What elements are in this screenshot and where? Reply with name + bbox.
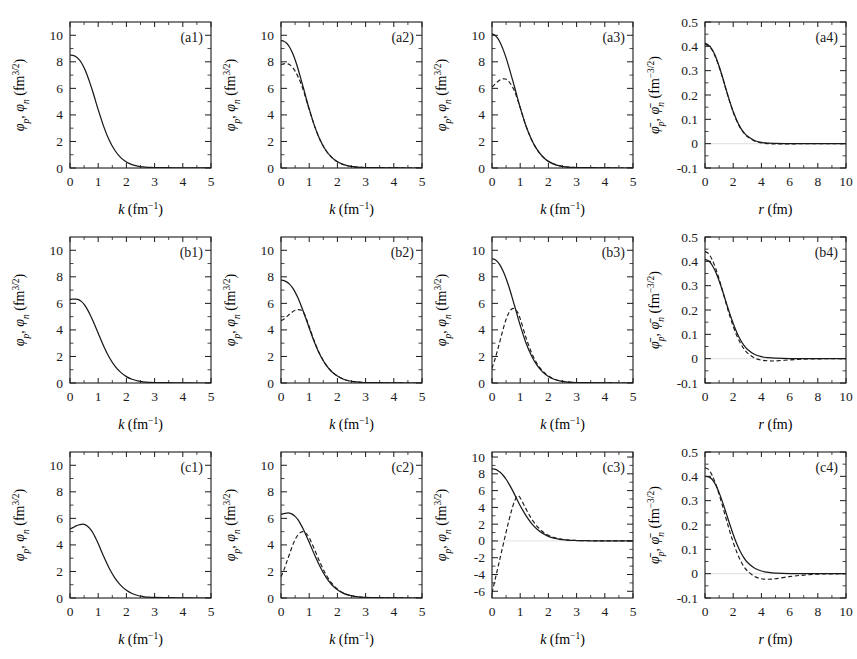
- y-tick-label: -6: [474, 584, 485, 599]
- x-tick-label: 8: [814, 174, 821, 189]
- x-tick-label: 1: [306, 174, 313, 189]
- x-tick-label: 3: [151, 389, 158, 404]
- y-tick-label: 10: [472, 450, 486, 465]
- y-tick-label: 2: [56, 349, 63, 364]
- y-tick-label: 6: [56, 81, 63, 96]
- x-tick-label: 2: [123, 174, 130, 189]
- y-tick-label: 10: [50, 243, 64, 258]
- y-tick-label: 6: [56, 296, 63, 311]
- x-tick-label: 3: [573, 604, 580, 619]
- y-tick-label: 2: [478, 517, 485, 532]
- x-tick-label: 10: [839, 604, 853, 619]
- y-tick-label: 10: [261, 28, 275, 43]
- panel-label: (b3): [602, 245, 626, 261]
- y-tick-label: 8: [267, 54, 274, 69]
- panel-label: (b1): [180, 245, 204, 261]
- x-tick-label: 1: [95, 604, 102, 619]
- y-tick-label: 8: [478, 269, 485, 284]
- curve-a4-neutron: [705, 44, 846, 144]
- y-tick-label: 0.1: [681, 112, 698, 127]
- y-tick-label: 8: [56, 54, 63, 69]
- y-tick-label: 6: [56, 511, 63, 526]
- y-tick-label: 0.2: [681, 303, 698, 318]
- y-tick-label: 0: [478, 533, 485, 548]
- y-tick-label: 2: [478, 349, 485, 364]
- x-tick-label: 0: [67, 389, 74, 404]
- panel-label: (c3): [602, 460, 625, 476]
- panel-a3: 0123450246810(a3)k (fm−1)φp, φn (fm3/2): [422, 0, 647, 220]
- x-tick-label: 10: [839, 389, 853, 404]
- curve-a3-neutron: [492, 79, 633, 168]
- curve-b2-proton: [281, 280, 422, 383]
- x-tick-label: 4: [758, 604, 765, 619]
- x-tick-label: 10: [839, 174, 853, 189]
- y-tick-label: 0.4: [681, 469, 698, 484]
- panel-label: (a2): [391, 30, 414, 46]
- x-tick-label: 0: [278, 174, 285, 189]
- x-tick-label: 4: [390, 389, 397, 404]
- y-tick-label: 0: [691, 351, 698, 366]
- y-tick-label: 0: [56, 161, 63, 176]
- y-tick-label: 4: [56, 107, 63, 122]
- panel-c1: 0123450246810(c1)k (fm−1)φp, φn (fm3/2): [0, 430, 225, 650]
- y-tick-label: 0.1: [681, 542, 698, 557]
- y-axis-label: φp, φn (fm3/2): [433, 58, 453, 131]
- panel-a4: 0246810-0.100.10.20.30.40.5(a4)r (fm)φ̄p…: [635, 0, 857, 220]
- y-axis-label: φp, φn (fm3/2): [222, 58, 242, 131]
- y-tick-label: 4: [267, 322, 274, 337]
- y-tick-label: 6: [267, 296, 274, 311]
- y-tick-label: 2: [267, 134, 274, 149]
- curve-c1-proton: [70, 524, 211, 598]
- y-axis-label: φp, φn (fm3/2): [11, 58, 31, 131]
- y-axis-label: φp, φn (fm3/2): [433, 488, 453, 561]
- x-tick-label: 2: [545, 604, 552, 619]
- y-tick-label: -4: [474, 567, 485, 582]
- y-axis-label: φ̄p, φ̄n (fm−3/2): [646, 271, 666, 349]
- curve-a3-proton: [492, 34, 633, 168]
- y-tick-label: 2: [267, 349, 274, 364]
- x-tick-label: 0: [702, 174, 709, 189]
- y-tick-label: 6: [478, 81, 485, 96]
- y-tick-label: 8: [478, 54, 485, 69]
- x-tick-label: 3: [362, 389, 369, 404]
- y-tick-label: -0.1: [677, 591, 698, 606]
- y-tick-label: 0: [478, 161, 485, 176]
- x-tick-label: 1: [517, 604, 524, 619]
- y-tick-label: 8: [267, 484, 274, 499]
- x-tick-label: 1: [306, 389, 313, 404]
- panel-label: (b4): [815, 245, 839, 261]
- y-axis-label: φp, φn (fm3/2): [433, 273, 453, 346]
- x-tick-label: 4: [601, 174, 608, 189]
- x-tick-label: 3: [151, 174, 158, 189]
- x-tick-label: 2: [545, 174, 552, 189]
- y-axis-label: φp, φn (fm3/2): [11, 273, 31, 346]
- y-tick-label: 0.3: [681, 493, 698, 508]
- x-tick-label: 1: [517, 174, 524, 189]
- y-tick-label: 4: [56, 322, 63, 337]
- y-tick-label: 0.5: [681, 15, 698, 30]
- y-tick-label: 4: [267, 107, 274, 122]
- y-tick-label: 2: [267, 564, 274, 579]
- y-tick-label: 0.5: [681, 230, 698, 245]
- x-tick-label: 2: [123, 604, 130, 619]
- x-tick-label: 6: [786, 174, 793, 189]
- y-tick-label: 0: [267, 161, 274, 176]
- x-tick-label: 4: [390, 174, 397, 189]
- y-tick-label: 2: [56, 564, 63, 579]
- y-tick-label: 8: [267, 269, 274, 284]
- x-tick-label: 4: [758, 174, 765, 189]
- x-axis-label: k (fm−1): [329, 631, 374, 648]
- y-tick-label: 2: [478, 134, 485, 149]
- x-tick-label: 4: [179, 604, 186, 619]
- x-tick-label: 0: [702, 604, 709, 619]
- x-tick-label: 4: [390, 604, 397, 619]
- x-tick-label: 2: [334, 389, 341, 404]
- x-tick-label: 2: [730, 174, 737, 189]
- x-tick-label: 6: [786, 604, 793, 619]
- y-tick-label: 0: [56, 376, 63, 391]
- panel-c2: 0123450246810(c2)k (fm−1)φp, φn (fm3/2): [211, 430, 436, 650]
- y-tick-label: -0.1: [677, 376, 698, 391]
- x-axis-label: k (fm−1): [118, 631, 163, 648]
- curve-c2-proton: [281, 513, 422, 598]
- y-tick-label: 4: [267, 537, 274, 552]
